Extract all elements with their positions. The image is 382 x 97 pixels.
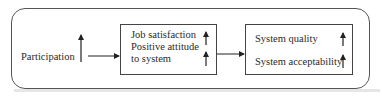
arrows-layer (0, 0, 382, 97)
